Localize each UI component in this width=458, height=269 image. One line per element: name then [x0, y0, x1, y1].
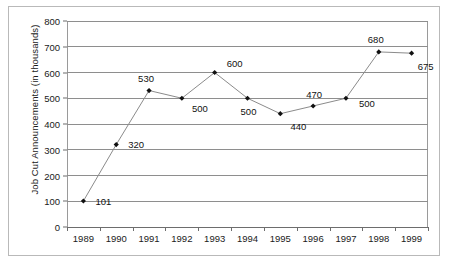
- data-point-label: 320: [128, 138, 144, 149]
- y-axis-tick-label: 600: [20, 67, 60, 78]
- y-axis-tick-label: 100: [20, 196, 60, 207]
- data-point-label: 530: [138, 72, 154, 83]
- y-axis-tick-label: 400: [20, 119, 60, 130]
- series-polyline: [83, 52, 411, 201]
- y-axis-tick-label: 0: [20, 222, 60, 233]
- x-axis-tick-mark: [428, 227, 429, 231]
- x-axis-tick-label: 1999: [387, 233, 437, 244]
- data-point-label: 500: [192, 103, 208, 114]
- data-point-label: 500: [241, 106, 257, 117]
- x-axis-tick-mark: [264, 227, 265, 231]
- series-line: [67, 21, 428, 227]
- data-point-marker: [278, 111, 283, 116]
- x-axis-tick-mark: [67, 227, 68, 231]
- data-point-label: 440: [290, 120, 306, 131]
- x-axis-tick-mark: [133, 227, 134, 231]
- data-point-label: 500: [359, 98, 375, 109]
- data-point-marker: [409, 51, 414, 56]
- x-axis-tick-mark: [100, 227, 101, 231]
- data-point-label: 680: [368, 33, 384, 44]
- data-point-label: 600: [227, 57, 243, 68]
- x-axis-tick-mark: [231, 227, 232, 231]
- y-axis-tick-label: 800: [20, 16, 60, 27]
- data-point-marker: [146, 88, 151, 93]
- x-axis-tick-mark: [395, 227, 396, 231]
- plot-area: 0100200300400500600700800 19891990199119…: [67, 21, 428, 227]
- y-axis-tick-label: 200: [20, 170, 60, 181]
- data-point-marker: [81, 198, 86, 203]
- data-point-marker: [311, 103, 316, 108]
- x-axis-tick-mark: [330, 227, 331, 231]
- y-axis-tick-label: 700: [20, 41, 60, 52]
- data-point-label: 470: [306, 88, 322, 99]
- x-axis-tick-mark: [198, 227, 199, 231]
- y-axis-tick-label: 300: [20, 144, 60, 155]
- data-point-label: 675: [418, 61, 434, 72]
- x-axis-tick-mark: [362, 227, 363, 231]
- chart-page: Job Cut Announcements (in thousands) 010…: [0, 0, 458, 269]
- y-axis-tick-label: 500: [20, 93, 60, 104]
- x-axis-tick-mark: [165, 227, 166, 231]
- x-axis-tick-mark: [297, 227, 298, 231]
- data-point-label: 101: [95, 195, 111, 206]
- data-point-marker: [114, 142, 119, 147]
